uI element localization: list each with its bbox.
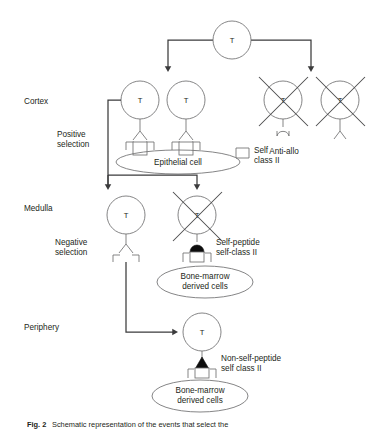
positive-selection-trunk — [108, 100, 121, 185]
tcr-icon — [334, 131, 346, 139]
stage-label-cortex: Cortex — [24, 97, 48, 106]
stage-label-medulla: Medulla — [24, 204, 53, 213]
process-label-positive-selection: Positive selection — [57, 130, 90, 149]
cell-letter: T — [230, 36, 235, 45]
anti-allo-label: Anti-allo — [269, 147, 299, 156]
presenting-cell-bone-marrow-periphery: Bone-marrow derived cells — [152, 380, 248, 412]
mhc-bracket-right — [205, 253, 211, 262]
arrow-to-periphery — [126, 262, 176, 332]
arrow-to-medulla-right — [108, 175, 197, 188]
cell-anti-allo-right: T — [316, 77, 365, 139]
mhc-class-ii-box — [190, 252, 204, 262]
tcr-icon — [179, 131, 193, 140]
stage-label-periphery: Periphery — [24, 323, 60, 332]
self-peptide-label-line1: Self-peptide — [216, 238, 260, 247]
figure-caption: Fig. 2 Schematic representation of the e… — [27, 420, 228, 429]
cell-letter: T — [138, 96, 143, 105]
diagram-svg: Cortex Medulla Periphery Positive select… — [0, 0, 375, 430]
cell-letter: T — [184, 96, 189, 105]
cell-letter: T — [200, 328, 205, 337]
figure-canvas: Cortex Medulla Periphery Positive select… — [0, 0, 375, 430]
cell-medulla-surviving: T — [107, 196, 145, 262]
tcr-bracket-left — [113, 255, 120, 262]
mhc-bracket-right — [210, 369, 216, 378]
negative-selection-escape-route — [126, 262, 176, 332]
cell-progenitor: T — [213, 21, 251, 59]
cell-anti-allo-left: T — [259, 77, 308, 136]
non-self-peptide-icon — [195, 357, 209, 369]
presenting-cell-epithelial: Epithelial cell — [116, 150, 240, 174]
positive-selection-line2: selection — [57, 140, 90, 149]
tcr-bracket-right — [132, 255, 139, 262]
self-peptide-label-line2: self-class II — [216, 248, 257, 257]
cell-cortex-selected: T — [121, 81, 159, 155]
self-class-ii-label-line1: Self — [254, 146, 269, 155]
mhc-bracket-left — [188, 369, 194, 378]
self-class-ii-box — [236, 148, 249, 158]
cell-periphery-mature: T — [183, 313, 221, 378]
non-self-peptide-label-line2: self class II — [221, 364, 262, 373]
caption-prefix: Fig. 2 — [27, 420, 46, 429]
tcr-icon — [133, 131, 147, 140]
self-class-ii-label-line2: class II — [254, 156, 279, 165]
non-self-peptide-annotation: Non-self-peptide self class II — [221, 354, 282, 373]
mhc-class-ii-box — [179, 142, 193, 155]
cell-letter: T — [124, 211, 129, 220]
mhc-class-ii-box — [195, 368, 209, 378]
positive-selection-line1: Positive — [57, 130, 86, 139]
arrow-to-cortex-left — [168, 40, 213, 70]
mhc-bracket-left — [183, 253, 189, 262]
cell-cortex-bystander: T — [167, 81, 205, 155]
tcr-icon-rounded — [277, 131, 289, 136]
tcr-icon — [119, 244, 133, 253]
epithelial-cell-label: Epithelial cell — [154, 158, 202, 167]
negative-selection-line2: selection — [55, 248, 88, 257]
bone-marrow-label-line1: Bone-marrow — [180, 272, 229, 281]
self-peptide-annotation: Self-peptide self-class II — [216, 238, 260, 257]
non-self-peptide-label-line1: Non-self-peptide — [221, 354, 282, 363]
bone-marrow-label-line2: derived cells — [182, 282, 228, 291]
branch-progenitor-to-cortex — [168, 40, 311, 70]
negative-selection-line1: Negative — [55, 238, 88, 247]
presenting-cell-bone-marrow-medulla: Bone-marrow derived cells — [157, 266, 253, 298]
bone-marrow-label-line2: derived cells — [177, 396, 223, 405]
bone-marrow-label-line1: Bone-marrow — [175, 386, 224, 395]
process-label-negative-selection: Negative selection — [55, 238, 88, 257]
caption-text: Schematic representation of the events t… — [52, 420, 228, 429]
cell-medulla-deleted: T — [173, 192, 222, 262]
arrow-to-cortex-right — [251, 40, 311, 70]
